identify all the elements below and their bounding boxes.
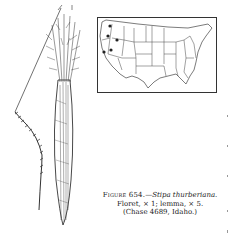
page-edge-marks <box>226 115 230 235</box>
figure-caption: Figure 654.—Stipa thurberiana. Floret, ×… <box>90 191 230 217</box>
species-name: Stipa thurberiana. <box>152 191 217 199</box>
caption-line-2: Floret, × 1; lemma, × 5. <box>90 200 230 209</box>
caption-line-3: (Chase 4689, Idaho.) <box>90 208 230 217</box>
us-map-outline <box>98 18 216 92</box>
distribution-map <box>97 17 217 93</box>
figure-label: Figure 654. <box>103 191 145 199</box>
occurrence-dots <box>102 24 118 53</box>
awn-line <box>15 8 61 112</box>
floret-lemma-illustration <box>0 0 100 236</box>
